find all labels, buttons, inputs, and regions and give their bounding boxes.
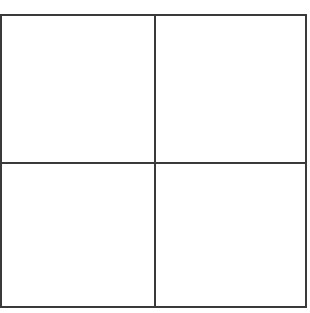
cell-bottom-left [2, 164, 154, 306]
cell-bottom-right [156, 164, 305, 306]
cell-top-left [2, 16, 154, 162]
cell-top-right [156, 16, 305, 162]
